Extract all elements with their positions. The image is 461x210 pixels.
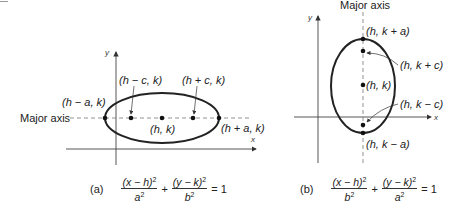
a-right-vertex-label: (h + a, k) (221, 122, 265, 134)
b-top-focus-point (361, 49, 366, 54)
b-center-label: (h, k) (366, 79, 391, 91)
b-bottom-focus-leader (367, 104, 398, 122)
a-center-point (160, 116, 165, 121)
caption-b-fraction-1: (x − h)2 b2 (331, 174, 367, 203)
b-bottom-vertex-point (361, 131, 366, 136)
b-major-axis-label: Major axis (340, 0, 391, 11)
a-right-focus-label: (h + c, k) (182, 74, 225, 86)
a-right-focus-point (191, 116, 196, 121)
caption-a-plus: + (161, 183, 167, 195)
a-num2-exp: 2 (202, 176, 206, 183)
a-right-focus-leader (194, 86, 197, 114)
caption-a-tag: (a) (90, 183, 103, 195)
b-den1-exp: 2 (350, 191, 354, 198)
b-num2: (y − k) (383, 176, 412, 188)
b-bottom-vertex-label: (h, k − a) (366, 138, 410, 150)
caption-b-plus: + (371, 183, 377, 195)
a-x-axis-label: x (250, 135, 256, 144)
b-top-focus-leader (367, 53, 398, 65)
figure-b: y x Major axis (h, k + a) (h, k + c) (h,… (294, 0, 443, 164)
a-left-focus-leader (131, 86, 134, 114)
b-x-axis-label: x (433, 113, 439, 122)
caption-b-fraction-2: (y − k)2 a2 (382, 174, 417, 203)
b-center-point (361, 83, 366, 88)
b-num1: (x − h) (332, 176, 362, 188)
caption-a: (a) (x − h)2 a2 + (y − k)2 b2 = 1 (90, 174, 231, 203)
a-num2: (y − k) (173, 176, 202, 188)
b-top-vertex-point (361, 37, 366, 42)
a-y-axis-label: y (104, 48, 110, 57)
figure-a: y x (h − c, k) (h + c, k) (h − a, k) (h,… (20, 48, 265, 165)
caption-b-tag: (b) (300, 183, 313, 195)
a-center-label: (h, k) (150, 123, 175, 135)
b-num1-exp: 2 (363, 176, 367, 183)
a-den2-exp: 2 (191, 191, 195, 198)
a-left-vertex-point (103, 116, 108, 121)
b-y-axis-label: y (307, 13, 313, 22)
a-num1: (x − h) (122, 176, 152, 188)
b-top-focus-label: (h, k + c) (400, 59, 443, 71)
a-left-focus-label: (h − c, k) (119, 74, 162, 86)
a-num1-exp: 2 (153, 176, 157, 183)
b-top-vertex-label: (h, k + a) (366, 25, 410, 37)
caption-a-rhs: = 1 (211, 183, 227, 195)
a-major-axis-label: Major axis (20, 112, 71, 124)
a-right-vertex-point (217, 116, 222, 121)
b-bottom-focus-label: (h, k − c) (400, 98, 443, 110)
b-den2-exp: 2 (401, 191, 405, 198)
caption-b-rhs: = 1 (421, 183, 437, 195)
a-left-focus-point (129, 116, 134, 121)
caption-b: (b) (x − h)2 b2 + (y − k)2 a2 = 1 (300, 174, 441, 203)
caption-a-fraction-2: (y − k)2 b2 (172, 174, 207, 203)
caption-a-fraction-1: (x − h)2 a2 (121, 174, 157, 203)
b-num2-exp: 2 (412, 176, 416, 183)
b-bottom-focus-point (361, 123, 366, 128)
a-left-vertex-label: (h − a, k) (62, 96, 106, 108)
a-den1-exp: 2 (140, 191, 144, 198)
